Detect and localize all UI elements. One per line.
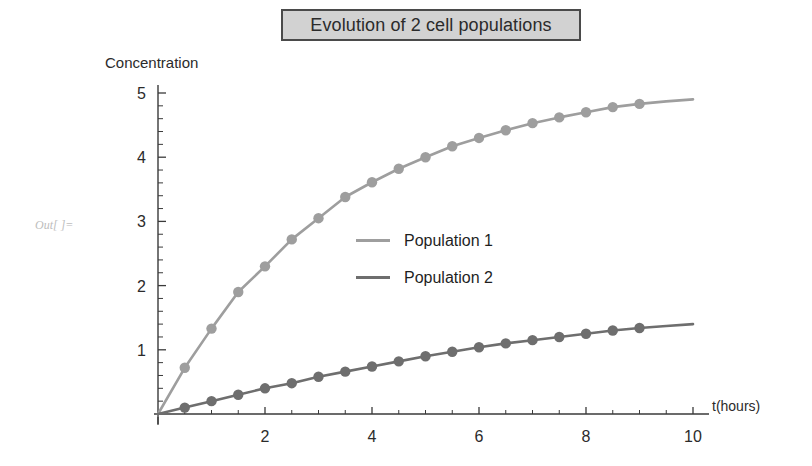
- legend-swatch-population-1: [356, 239, 390, 242]
- data-point-marker-series-1: [287, 234, 297, 244]
- data-point-marker-series-2: [180, 402, 190, 412]
- data-point-marker-series-2: [206, 396, 216, 406]
- legend-item-population-1[interactable]: Population 1: [356, 222, 546, 259]
- data-point-marker-series-1: [420, 152, 430, 162]
- chart-legend: Population 1 Population 2: [356, 222, 546, 296]
- legend-label-population-1: Population 1: [404, 232, 493, 250]
- data-point-marker-series-2: [527, 335, 537, 345]
- y-axis-tick-label: 4: [137, 149, 146, 166]
- x-axis-tick-label: 6: [475, 428, 484, 445]
- data-point-marker-series-2: [634, 323, 644, 333]
- y-axis-tick-label: 2: [137, 278, 146, 295]
- data-point-marker-series-1: [501, 125, 511, 135]
- data-point-marker-series-1: [608, 102, 618, 112]
- data-point-marker-series-1: [313, 213, 323, 223]
- chart-screenshot: Evolution of 2 cell populations Out[ ]= …: [0, 0, 812, 466]
- legend-item-population-2[interactable]: Population 2: [356, 259, 546, 296]
- x-axis-tick-label: 10: [684, 428, 702, 445]
- data-point-marker-series-2: [340, 366, 350, 376]
- data-point-marker-series-2: [581, 329, 591, 339]
- data-point-marker-series-1: [527, 118, 537, 128]
- data-point-marker-series-1: [581, 107, 591, 117]
- data-point-marker-series-2: [474, 342, 484, 352]
- data-point-marker-series-2: [420, 351, 430, 361]
- data-point-marker-series-1: [233, 287, 243, 297]
- x-axis-tick-label: 2: [261, 428, 270, 445]
- data-point-marker-series-2: [608, 325, 618, 335]
- data-point-marker-series-1: [394, 164, 404, 174]
- data-point-marker-series-2: [447, 347, 457, 357]
- data-point-marker-series-1: [474, 133, 484, 143]
- data-point-marker-series-2: [233, 390, 243, 400]
- data-point-marker-series-1: [180, 363, 190, 373]
- x-axis-tick-label: 8: [582, 428, 591, 445]
- y-axis-tick-label: 5: [137, 85, 146, 102]
- legend-label-population-2: Population 2: [404, 269, 493, 287]
- data-point-marker-series-2: [501, 338, 511, 348]
- data-point-marker-series-2: [313, 372, 323, 382]
- x-axis-tick-label: 4: [368, 428, 377, 445]
- data-point-marker-series-2: [554, 332, 564, 342]
- data-point-marker-series-1: [260, 261, 270, 271]
- data-point-marker-series-2: [260, 383, 270, 393]
- data-point-marker-series-1: [206, 323, 216, 333]
- y-axis-tick-label: 3: [137, 213, 146, 230]
- data-point-marker-series-1: [554, 112, 564, 122]
- y-axis-tick-label: 1: [137, 342, 146, 359]
- data-point-marker-series-2: [367, 361, 377, 371]
- data-point-marker-series-1: [634, 99, 644, 109]
- data-point-marker-series-1: [447, 141, 457, 151]
- data-point-marker-series-1: [367, 177, 377, 187]
- legend-swatch-population-2: [356, 276, 390, 279]
- data-point-marker-series-1: [340, 192, 350, 202]
- data-point-marker-series-2: [394, 356, 404, 366]
- data-point-marker-series-2: [287, 378, 297, 388]
- series-line-2: [158, 324, 693, 414]
